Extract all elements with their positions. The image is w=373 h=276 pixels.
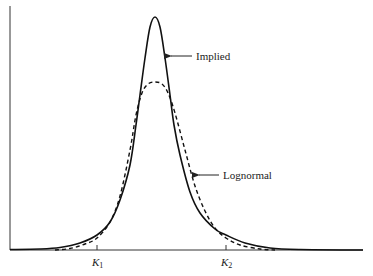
lognormal-density-curve — [55, 82, 275, 250]
lognormal-label: Lognormal — [223, 169, 272, 181]
k1-label: K1 — [91, 256, 103, 270]
density-chart: Implied Lognormal K1 K2 — [0, 0, 373, 276]
implied-label: Implied — [196, 50, 231, 62]
k2-label: K2 — [220, 256, 232, 270]
implied-density-curve — [10, 17, 363, 250]
